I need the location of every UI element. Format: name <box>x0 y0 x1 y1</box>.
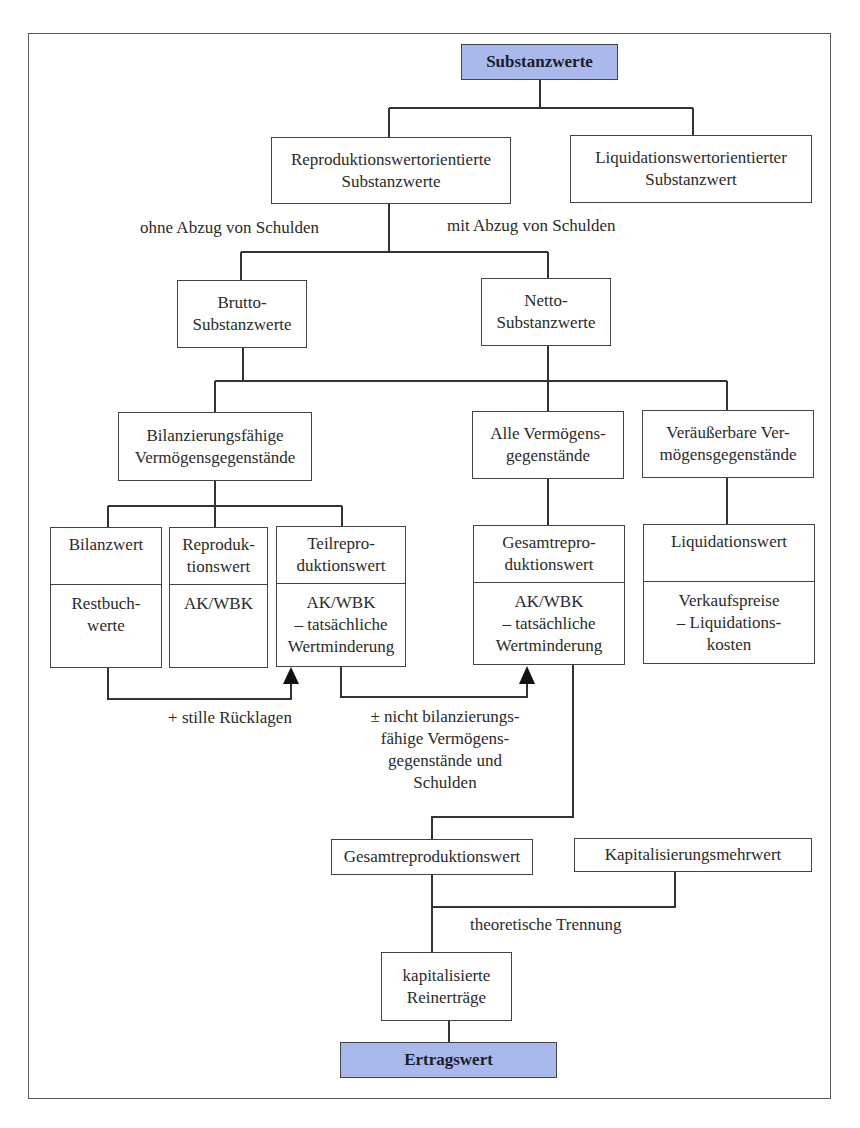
node-bilanzwert-title: Bilanzwert <box>51 528 161 585</box>
node-reproduktionswert-value: AK/WBK <box>170 585 267 667</box>
node-liquidationswert: Liquidationswert Verkaufspreise – Liquid… <box>643 524 815 664</box>
node-gesamtreproduktionswert-value: AK/WBK – tatsächliche Wertminderung <box>474 583 624 664</box>
edge-label-ohne-abzug: ohne Abzug von Schulden <box>140 217 340 239</box>
node-liquidationswertorientierter-substanzwert: Liquidationswertorientierter Substanzwer… <box>570 135 812 203</box>
node-liquidationswert-value: Verkaufspreise – Liquidations- kosten <box>644 582 814 663</box>
edge-label-nicht-bilanzierungsfaehig: ± nicht bilanzierungs- fähige Vermögens-… <box>345 706 545 794</box>
node-gesamtreproduktionswert-title: Gesamtrepro- duktionswert <box>474 526 624 583</box>
node-gesamtreproduktionswert: Gesamtreproduktionswert <box>331 839 533 875</box>
node-teilreproduktionswert: Teilrepro- duktionswert AK/WBK – tatsäch… <box>276 526 406 667</box>
node-netto-substanzwerte: Netto- Substanzwerte <box>481 278 611 346</box>
node-teilreproduktionswert-value: AK/WBK – tatsächliche Wertminderung <box>277 584 405 666</box>
node-liquidationswert-title: Liquidationswert <box>644 525 814 582</box>
edge-label-mit-abzug: mit Abzug von Schulden <box>447 215 647 237</box>
edge-label-stille-ruecklagen: + stille Rücklagen <box>130 707 330 729</box>
node-kapitalisierungsmehrwert: Kapitalisierungsmehrwert <box>574 838 812 872</box>
node-teilreproduktionswert-title: Teilrepro- duktionswert <box>277 527 405 584</box>
node-reproduktionswert: Reproduk- tionswert AK/WBK <box>169 527 268 668</box>
edge-label-theoretische-trennung: theoretische Trennung <box>470 914 690 936</box>
node-substanzwerte: Substanzwerte <box>461 44 618 80</box>
node-reproduktionswert-title: Reproduk- tionswert <box>170 528 267 585</box>
node-gesamtreproduktionswert-detail: Gesamtrepro- duktionswert AK/WBK – tatsä… <box>473 525 625 665</box>
node-bilanzierungsfaehige-vermoegensgegenstaende: Bilanzierungsfähige Vermögensgegenstände <box>118 412 312 481</box>
node-bilanzwert-value: Restbuch- werte <box>51 585 161 667</box>
node-reproduktionswertorientierte-substanzwerte: Reproduktionswertorientierte Substanzwer… <box>271 137 511 204</box>
node-alle-vermoegensgegenstaende: Alle Vermögens- gegenstände <box>472 411 624 479</box>
node-brutto-substanzwerte: Brutto- Substanzwerte <box>177 280 307 348</box>
node-ertragswert: Ertragswert <box>340 1042 557 1078</box>
arrowhead-icons <box>283 666 535 684</box>
node-bilanzwert: Bilanzwert Restbuch- werte <box>50 527 162 668</box>
node-kapitalisierte-reinertraege: kapitalisierte Reinerträge <box>381 952 512 1021</box>
node-veraeusserbare-vermoegensgegenstaende: Veräußerbare Ver- mögensgegenstände <box>642 410 814 478</box>
